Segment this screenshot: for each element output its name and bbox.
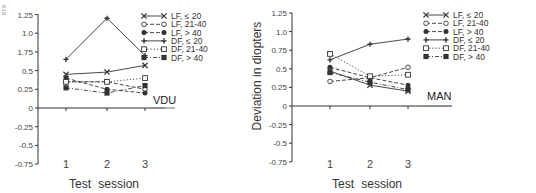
y-tick-label: -0.5 [273,139,287,148]
plus-marker-icon [367,42,372,47]
x-tick-label: 3 [142,158,148,170]
plus-marker-icon [141,38,146,43]
x-tick-label: 2 [104,158,110,170]
open-square-marker-icon [444,46,449,51]
open-circle-marker-icon [406,65,411,70]
y-tick-label: -0.75 [269,158,288,167]
y-tick-label: -0.25 [15,123,34,132]
y-tick-label: 1.0 [22,29,34,38]
y-tick-label: 1.25 [17,11,33,20]
x-axis-label: Test session [332,177,402,191]
legend-label: DF, > 40 [171,53,203,63]
open-square-marker-icon [328,52,333,57]
filled-square-marker-icon [423,54,428,59]
plus-marker-icon [327,57,332,62]
legend-item: DF, > 40 [423,52,485,62]
y-tick-label: 0.5 [22,67,34,76]
y-tick-label: 1.25 [271,9,287,18]
y-axis-label: Deviation in diopters [250,22,264,131]
x-tick-label: 3 [405,158,411,170]
plus-marker-icon [423,37,428,42]
open-square-marker-icon [105,79,110,84]
y-tick-label: 0.5 [276,65,288,74]
open-circle-marker-icon [444,21,449,26]
series-line [327,70,410,92]
y-tick-label: 0.25 [17,85,33,94]
y-tick-label: 1.0 [276,28,288,37]
open-square-marker-icon [406,72,411,77]
open-circle-marker-icon [424,21,429,26]
y-tick-label: 0 [29,104,34,113]
series-line [63,16,147,62]
filled-square-marker-icon [104,90,109,95]
legend-label: DF, > 40 [453,52,485,62]
filled-square-marker-icon [142,83,147,88]
filled-square-marker-icon [443,54,448,59]
chart-panel-vdu: 1.251.01.750.50.250-0.25-0.5-0.75123Test… [0,4,208,191]
filled-square-marker-icon [405,87,410,92]
filled-circle-marker-icon [162,30,167,35]
filled-square-marker-icon [367,80,372,85]
open-square-marker-icon [162,47,167,52]
series-line [327,36,410,62]
y-tick-label: 0.75 [271,46,287,55]
plus-marker-icon [161,38,166,43]
open-square-marker-icon [142,47,147,52]
filled-square-marker-icon [161,55,166,60]
open-square-marker-icon [424,46,429,51]
filled-square-marker-icon [327,70,332,75]
legend-item: DF, > 40 [141,53,203,63]
open-circle-marker-icon [142,22,147,27]
filled-circle-marker-icon [444,29,449,34]
open-square-marker-icon [64,79,69,84]
filled-square-marker-icon [141,55,146,60]
chart-panel-man: 1.251.00.750.50.250-0.25-0.5-0.75123Test… [250,9,490,191]
y-axis-label-cropped: ers [0,4,8,15]
y-tick-label: 1.75 [17,48,33,57]
panel-label: MAN [427,90,452,102]
y-tick-label: -0.25 [269,121,288,130]
open-square-marker-icon [368,74,373,79]
chart-figure: 1.251.01.750.50.250-0.25-0.5-0.75123Test… [0,0,536,193]
plus-marker-icon [405,36,410,41]
filled-circle-marker-icon [143,91,148,96]
x-tick-label: 1 [63,158,69,170]
open-circle-marker-icon [328,79,333,84]
panel-label: VDU [153,94,176,106]
filled-circle-marker-icon [328,65,333,70]
filled-circle-marker-icon [424,29,429,34]
series-line [63,63,147,77]
filled-circle-marker-icon [406,83,411,88]
y-tick-label: -0.75 [15,160,34,169]
y-tick-label: 0 [283,102,288,111]
series-line [64,76,148,85]
y-tick-label: -0.5 [19,141,33,150]
open-square-marker-icon [143,76,148,81]
x-tick-label: 1 [327,158,333,170]
filled-square-marker-icon [63,85,68,90]
filled-circle-marker-icon [142,30,147,35]
plus-marker-icon [443,37,448,42]
x-tick-label: 2 [367,158,373,170]
open-circle-marker-icon [162,22,167,27]
y-tick-label: 0.25 [271,83,287,92]
x-axis-label: Test session [69,177,139,191]
